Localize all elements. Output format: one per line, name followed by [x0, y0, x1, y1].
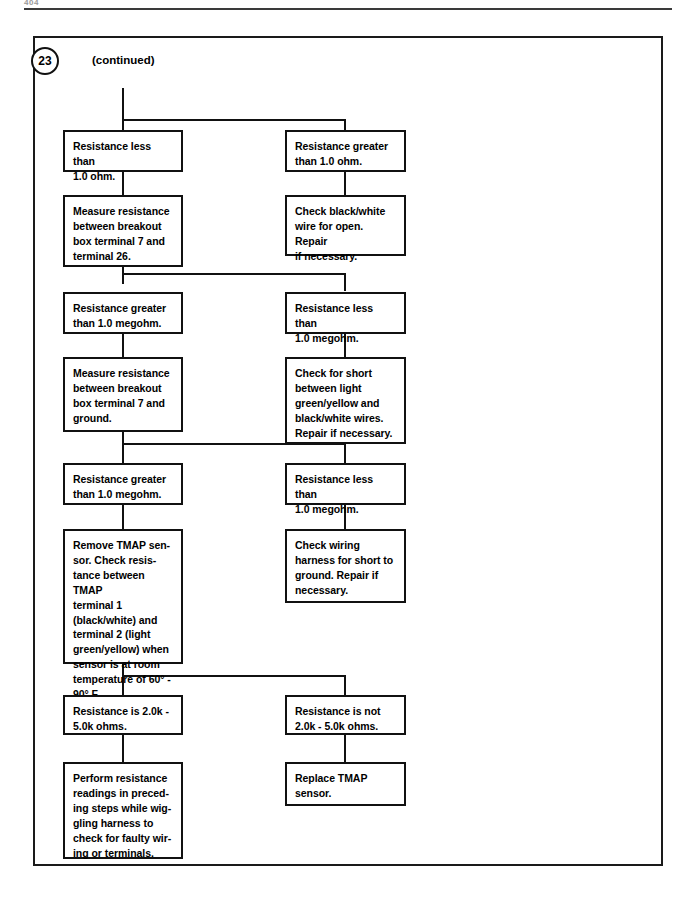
connector-row3-to-row4-left	[122, 333, 124, 357]
flow-node-text: Resistance less than 1.0 ohm.	[73, 139, 174, 184]
flow-node-replace-tmap-sensor: Replace TMAP sensor.	[285, 762, 406, 806]
flow-node-check-wiring-harness-short-ground: Check wiring harness for short to ground…	[285, 529, 406, 603]
flow-node-check-short-between-wires: Check for short between light green/yell…	[285, 357, 406, 444]
connector-drop-row3-right	[344, 273, 346, 291]
connector-row1-to-row2-right	[344, 171, 346, 196]
flow-node-text: Check wiring harness for short to ground…	[295, 538, 397, 598]
flow-node-text: Resistance greater than 1.0 megohm.	[73, 301, 174, 331]
flow-node-text: Perform resistance readings in preced- i…	[73, 771, 174, 860]
flow-node-text: Resistance less than 1.0 megohm.	[295, 301, 397, 346]
connector-branch-row3	[122, 273, 346, 275]
connector-row5-to-row6-left	[122, 504, 124, 530]
flow-node-text: Resistance is 2.0k - 5.0k ohms.	[73, 704, 174, 734]
flow-node-resistance-greater-1ohm: Resistance greater than 1.0 ohm.	[285, 130, 406, 172]
flow-node-resistance-is-2k-5k: Resistance is 2.0k - 5.0k ohms.	[63, 695, 183, 735]
connector-entry-stem	[122, 88, 124, 121]
connector-row2-stem-left	[122, 266, 124, 284]
flow-node-resistance-greater-1megohm-a: Resistance greater than 1.0 megohm.	[63, 292, 183, 334]
flow-node-resistance-is-not-2k-5k: Resistance is not 2.0k - 5.0k ohms.	[285, 695, 406, 735]
continued-label: (continued)	[92, 54, 155, 66]
flow-node-measure-terminal-7-and-26: Measure resistance between breakout box …	[63, 195, 183, 267]
flow-node-resistance-less-1megohm-a: Resistance less than 1.0 megohm.	[285, 292, 406, 334]
flow-node-text: Resistance greater than 1.0 megohm.	[73, 472, 174, 502]
flow-node-perform-resistance-readings-wiggling: Perform resistance readings in preced- i…	[63, 762, 183, 859]
page-folio: 404	[24, 0, 39, 7]
connector-row7-to-row8-left	[122, 734, 124, 763]
flow-node-text: Remove TMAP sen- sor. Check resis- tance…	[73, 538, 174, 702]
flow-node-resistance-less-1ohm: Resistance less than 1.0 ohm.	[63, 130, 183, 172]
flow-node-remove-tmap-sensor-check-resistance: Remove TMAP sen- sor. Check resis- tance…	[63, 529, 183, 664]
flow-node-text: Resistance less than 1.0 megohm.	[295, 472, 397, 517]
connector-branch-row1	[122, 119, 346, 121]
flow-node-check-black-white-wire-open: Check black/white wire for open. Repair …	[285, 195, 406, 256]
page-header-rule	[24, 8, 672, 10]
flow-node-text: Measure resistance between breakout box …	[73, 204, 174, 264]
flow-node-text: Resistance greater than 1.0 ohm.	[295, 139, 397, 169]
connector-row7-to-row8-right	[344, 734, 346, 763]
step-number-badge: 23	[31, 47, 59, 75]
flow-node-text: Check for short between light green/yell…	[295, 366, 397, 441]
connector-drop-row7-right	[344, 675, 346, 696]
flow-node-text: Replace TMAP sensor.	[295, 771, 397, 801]
flow-node-text: Measure resistance between breakout box …	[73, 366, 174, 426]
flow-node-resistance-less-1megohm-b: Resistance less than 1.0 megohm.	[285, 463, 406, 505]
flow-node-text: Check black/white wire for open. Repair …	[295, 204, 397, 264]
flow-node-resistance-greater-1megohm-b: Resistance greater than 1.0 megohm.	[63, 463, 183, 505]
flow-node-text: Resistance is not 2.0k - 5.0k ohms.	[295, 704, 397, 734]
flow-node-measure-terminal-7-and-ground: Measure resistance between breakout box …	[63, 357, 183, 432]
